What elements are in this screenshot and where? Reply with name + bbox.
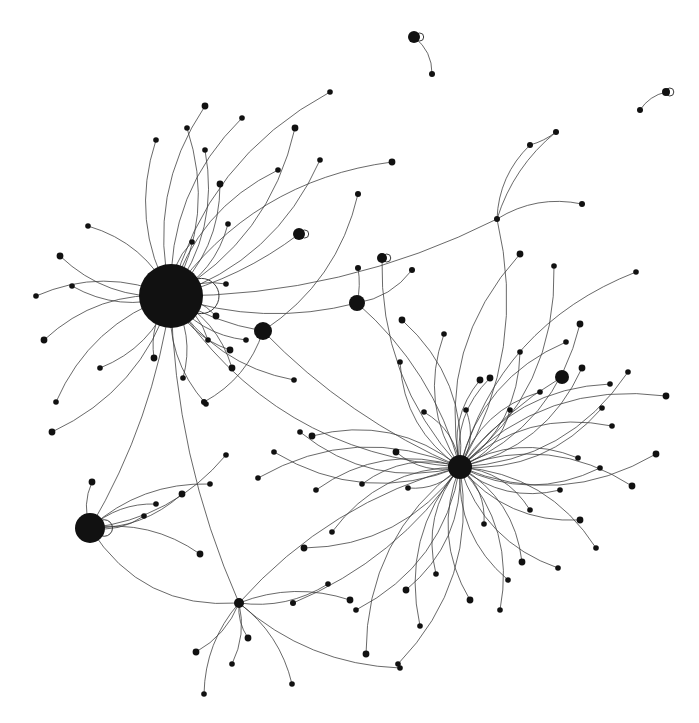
graph-node: [49, 429, 56, 436]
graph-node: [597, 465, 603, 471]
edge: [366, 467, 460, 654]
graph-node: [399, 317, 406, 324]
graph-node: [301, 545, 308, 552]
graph-node: [197, 551, 204, 558]
edge: [415, 467, 460, 626]
graph-node: [213, 313, 220, 320]
graph-node: [355, 191, 361, 197]
graph-node: [405, 485, 411, 491]
graph-node: [193, 649, 200, 656]
graph-node: [97, 365, 103, 371]
graph-node: [69, 283, 75, 289]
graph-node: [653, 451, 660, 458]
graph-node: [429, 71, 435, 77]
graph-node: [53, 399, 59, 405]
graph-node: [551, 263, 557, 269]
graph-node: [441, 331, 447, 337]
graph-node: [467, 597, 474, 604]
hub-node: [234, 598, 244, 608]
graph-node: [537, 389, 543, 395]
edge: [232, 603, 242, 664]
graph-node: [179, 491, 186, 498]
graph-node: [519, 559, 526, 566]
graph-node: [275, 167, 281, 173]
edge: [497, 201, 582, 219]
graph-node: [217, 181, 224, 188]
edge: [258, 447, 460, 478]
graph-node: [41, 337, 48, 344]
graph-node: [409, 267, 415, 273]
graph-node: [271, 449, 277, 455]
graph-node: [607, 381, 613, 387]
graph-node: [577, 321, 584, 328]
graph-node: [153, 137, 159, 143]
edge: [90, 528, 239, 604]
network-graph: [0, 0, 699, 723]
graph-node: [151, 355, 158, 362]
graph-node: [291, 377, 297, 383]
graph-node: [517, 349, 523, 355]
graph-node: [389, 159, 396, 166]
hub-node: [448, 455, 472, 479]
graph-node: [153, 501, 159, 507]
edge: [171, 219, 497, 296]
graph-node: [575, 455, 581, 461]
hub-node: [555, 370, 569, 384]
graph-node: [507, 407, 513, 413]
graph-node: [292, 125, 299, 132]
graph-node: [245, 635, 252, 642]
edge: [382, 258, 460, 467]
hub-node: [290, 600, 296, 606]
nodes-layer: [33, 31, 670, 697]
graph-node: [421, 409, 427, 415]
graph-node: [609, 423, 615, 429]
graph-node: [89, 479, 96, 486]
graph-node: [463, 407, 469, 413]
graph-node: [629, 483, 636, 490]
graph-node: [579, 201, 585, 207]
graph-node: [637, 107, 643, 113]
graph-node: [563, 339, 569, 345]
graph-node: [57, 253, 64, 260]
graph-node: [243, 337, 249, 343]
graph-node: [497, 607, 503, 613]
graph-node: [33, 293, 39, 299]
edge: [239, 603, 400, 668]
edges-layer: [36, 37, 666, 694]
edge: [460, 454, 632, 486]
hub-node: [349, 295, 365, 311]
graph-node: [223, 281, 229, 287]
graph-node: [633, 269, 639, 275]
edge: [640, 92, 666, 110]
edge: [304, 467, 460, 548]
graph-node: [481, 521, 487, 527]
graph-node: [225, 221, 231, 227]
edge: [357, 270, 412, 303]
graph-node: [227, 347, 234, 354]
graph-node: [397, 665, 403, 671]
graph-node: [363, 651, 370, 658]
graph-node: [205, 337, 211, 343]
graph-node: [317, 157, 323, 163]
hub-node: [408, 31, 420, 43]
graph-node: [297, 429, 303, 435]
graph-node: [255, 475, 261, 481]
graph-node: [403, 587, 410, 594]
edge: [239, 603, 292, 684]
edge: [402, 320, 461, 467]
graph-node: [577, 517, 584, 524]
graph-node: [579, 365, 586, 372]
graph-node: [141, 513, 147, 519]
graph-node: [527, 142, 533, 148]
graph-node: [359, 481, 365, 487]
edge: [434, 334, 460, 467]
hub-node: [377, 253, 387, 263]
graph-node: [353, 607, 359, 613]
graph-node: [202, 147, 208, 153]
graph-node: [229, 661, 235, 667]
graph-node: [325, 581, 331, 587]
graph-node: [347, 597, 354, 604]
hub-node: [662, 88, 670, 96]
edge: [90, 296, 171, 528]
graph-node: [184, 125, 190, 131]
